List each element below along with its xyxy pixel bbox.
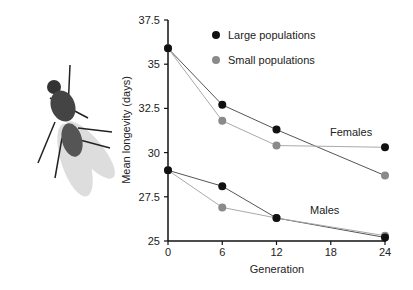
x-axis-label: Generation (250, 263, 304, 275)
svg-text:30: 30 (148, 147, 160, 159)
fly-icon (38, 65, 122, 200)
svg-text:18: 18 (325, 246, 337, 258)
svg-text:37.5: 37.5 (139, 14, 160, 26)
svg-text:0: 0 (165, 246, 171, 258)
chart: 2527.53032.53537.5 06121824 Mean longevi… (0, 0, 413, 290)
svg-text:27.5: 27.5 (139, 191, 160, 203)
svg-text:24: 24 (379, 246, 391, 258)
svg-text:12: 12 (270, 246, 282, 258)
series-lines (164, 44, 389, 241)
annotation-males: Males (310, 204, 340, 216)
svg-text:32.5: 32.5 (139, 102, 160, 114)
y-ticks: 2527.53032.53537.5 (139, 14, 168, 247)
y-axis-label: Mean longevity (days) (120, 76, 132, 184)
svg-text:35: 35 (148, 58, 160, 70)
annotation-females: Females (330, 126, 373, 138)
svg-text:25: 25 (148, 235, 160, 247)
x-ticks: 06121824 (165, 241, 391, 258)
svg-text:6: 6 (219, 246, 225, 258)
legend: Large populations Small populations (212, 29, 316, 66)
legend-large: Large populations (228, 29, 316, 41)
legend-small: Small populations (228, 54, 315, 66)
